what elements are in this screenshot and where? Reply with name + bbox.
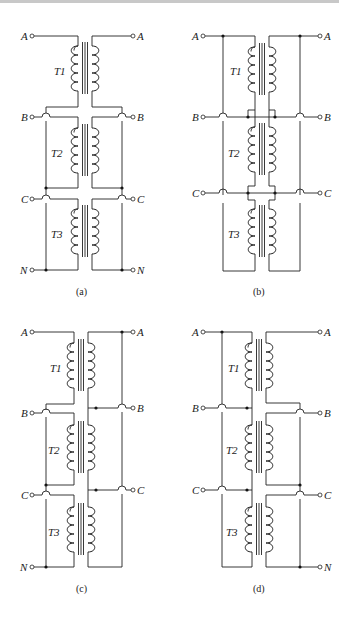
terminal-label: B <box>137 111 144 123</box>
panel-c: A A B B C C N T1 T2 T3 (c) <box>19 326 145 595</box>
transformer-t1 <box>248 39 276 100</box>
terminal-label: A <box>136 30 144 42</box>
terminal-label: N <box>19 561 28 573</box>
terminal-label: B <box>21 407 28 419</box>
transformer-t1 <box>67 335 95 396</box>
terminal-label: C <box>324 187 332 199</box>
panel-b: A A B B C C T1 T2 T3 (b) <box>191 30 332 298</box>
transformer-t3 <box>248 201 276 262</box>
panel-caption: (b) <box>253 286 265 298</box>
terminal-label: C <box>21 489 29 501</box>
transformer-label: T3 <box>48 526 60 538</box>
terminal-label: B <box>192 111 199 123</box>
transformer-label: T2 <box>228 147 240 159</box>
panel-caption: (c) <box>76 583 87 595</box>
transformer-t3 <box>67 499 95 560</box>
terminal-label: C <box>137 193 145 205</box>
transformer-t3 <box>71 201 99 262</box>
terminal-label: N <box>19 264 28 276</box>
transformer-t1 <box>245 335 273 396</box>
transformer-label: T2 <box>48 444 60 456</box>
transformer-label: T3 <box>51 228 63 240</box>
terminal-label: A <box>323 30 331 42</box>
transformer-label: T2 <box>226 444 238 456</box>
transformer-label: T1 <box>230 65 242 77</box>
panel-a: A A B B C C N N T1 T2 T3 (a) <box>19 30 145 298</box>
terminal-label: A <box>136 326 144 338</box>
transformer-t1 <box>71 38 99 99</box>
terminal-label: A <box>191 30 199 42</box>
terminal-label: A <box>323 326 331 338</box>
transformer-label: T1 <box>50 362 62 374</box>
transformer-t3 <box>245 499 273 560</box>
terminal-label: A <box>191 326 199 338</box>
transformer-label: T3 <box>228 228 240 240</box>
terminal-label: B <box>324 111 331 123</box>
terminal-label: B <box>137 402 144 414</box>
terminal-label: N <box>323 561 332 573</box>
terminal-label: C <box>192 484 200 496</box>
terminal-label: C <box>324 489 332 501</box>
terminal-label: A <box>20 30 28 42</box>
transformer-t2 <box>67 417 95 478</box>
terminal-label: C <box>21 193 29 205</box>
terminal-label: C <box>192 187 200 199</box>
transformer-t2 <box>71 120 99 181</box>
terminal-label: B <box>324 407 331 419</box>
terminal-label: B <box>21 111 28 123</box>
transformer-label: T2 <box>51 147 63 159</box>
panel-caption: (a) <box>76 286 87 298</box>
panel-d: A A B B C C N T1 T2 T3 (d) <box>191 326 332 595</box>
transformer-label: T3 <box>226 526 238 538</box>
transformer-t2 <box>245 417 273 478</box>
transformer-label: T1 <box>228 362 240 374</box>
terminal-label: A <box>20 326 28 338</box>
transformer-label: T1 <box>54 65 66 77</box>
transformer-connection-diagrams: A A B B C C N N T1 T2 T3 (a) <box>0 0 339 618</box>
terminal-label: C <box>137 484 145 496</box>
terminal-label: N <box>136 264 145 276</box>
panel-caption: (d) <box>253 583 265 595</box>
transformer-t2 <box>248 119 276 180</box>
terminal-label: B <box>192 402 199 414</box>
